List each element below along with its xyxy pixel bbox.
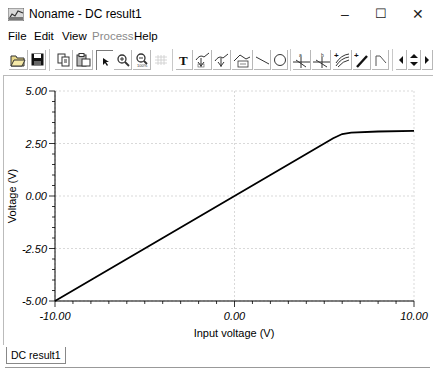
marker-b-button[interactable]: b [312,50,331,70]
scroll-left-icon [398,56,404,64]
app-icon [8,8,24,21]
close-button[interactable]: ✕ [403,3,433,25]
scroll-right-icon [424,56,430,64]
y-tick-label: 5.00 [26,85,48,97]
svg-text:100%: 100% [137,63,148,67]
scroll-left-button[interactable] [396,50,407,70]
zoom-out-button[interactable]: 100% [133,50,151,70]
grid-button[interactable] [152,50,170,70]
paste-icon [76,53,91,67]
pointer-icon [100,55,110,67]
menu-file[interactable]: File [8,30,27,42]
marker-a-button[interactable]: a [293,50,311,70]
paste-button[interactable] [74,50,93,70]
menu-edit[interactable]: Edit [34,30,54,42]
svg-text:+: + [354,52,359,60]
y-tick-label: 0.00 [26,190,48,202]
scroll-right-button[interactable] [422,50,433,70]
y-tick-label: -2.50 [22,243,48,255]
dc-result-chart[interactable]: -10.000.0010.00 5.002.500.00-2.50-5.00 I… [0,75,435,346]
y-tick-labels: 5.002.500.00-2.50-5.00 [22,85,48,307]
text-button[interactable]: T [176,50,193,70]
cursor-a-icon [195,52,211,68]
marker-a-icon: a [293,52,310,68]
svg-text:T: T [179,54,188,66]
step-button[interactable] [372,50,389,70]
cursor-b-button[interactable] [213,50,231,70]
title-bar: Noname - DC result1 – ☐ ✕ [0,0,435,28]
open-button[interactable] [9,50,28,70]
menu-view[interactable]: View [62,30,87,42]
zoom-in-icon [116,53,130,67]
probe-icon: + [354,52,369,68]
y-axis-label: Voltage (V) [6,169,18,223]
tick-marks [49,91,414,307]
x-tick-label: 0.00 [224,310,246,322]
step-icon [374,54,387,66]
add-curve-icon: + [334,52,350,68]
circle-icon [273,53,287,67]
text-icon: T [178,54,190,66]
toolbar: 100% T a b + + [0,48,435,73]
scroll-updown-icon [410,53,418,67]
tab-dc-result1[interactable]: DC result1 [6,347,66,364]
save-button[interactable] [29,50,46,70]
cursor-b-icon [214,52,230,68]
menu-help[interactable]: Help [134,30,158,42]
zoom-out-icon: 100% [135,52,149,67]
probe-button[interactable]: + [353,50,371,70]
tab-strip: DC result1 [0,346,435,371]
label-button[interactable] [232,50,253,70]
scroll-updown-button[interactable] [408,50,421,70]
grid-icon [155,55,167,65]
window-title: Noname - DC result1 [29,7,142,21]
y-tick-label: 2.50 [25,138,48,150]
save-icon [31,53,44,66]
line-icon [255,54,270,66]
x-tick-labels: -10.000.0010.00 [39,310,428,322]
add-curve-button[interactable]: + [333,50,352,70]
maximize-button[interactable]: ☐ [366,3,396,25]
copy-icon [57,53,71,67]
open-icon [10,53,26,67]
menu-process[interactable]: Process [92,30,134,42]
pointer-button[interactable] [96,50,113,70]
cursor-a-button[interactable] [194,50,212,70]
copy-button[interactable] [55,50,73,70]
marker-b-icon: b [313,52,330,68]
label-icon [233,52,251,68]
circle-button[interactable] [272,50,288,70]
x-tick-label: -10.00 [39,310,71,322]
zoom-in-button[interactable] [114,50,132,70]
x-tick-label: 10.00 [400,310,428,322]
line-button[interactable] [254,50,271,70]
y-tick-label: -5.00 [22,295,48,307]
minimize-button[interactable]: – [330,3,360,25]
x-axis-label: Input voltage (V) [194,327,275,339]
svg-text:+: + [334,52,339,60]
menu-bar: File Edit View Process Help [0,28,435,46]
